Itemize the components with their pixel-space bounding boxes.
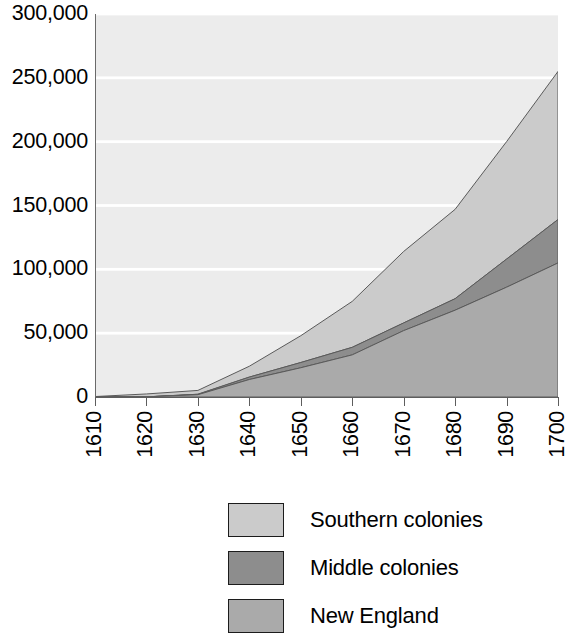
y-axis-spine [95,14,96,397]
x-axis: 1610162016301640165016601670168016901700 [0,397,572,492]
x-axis-tick-mark [95,397,96,406]
x-axis-tick-label: 1630 [187,411,209,458]
legend-label-new-england: New England [310,605,439,627]
y-axis-tick-label: 50,000 [23,322,88,344]
gridline [95,140,558,143]
x-axis-tick-label: 1680 [444,411,466,458]
x-axis-tick-mark [352,397,353,406]
x-axis-tick-mark [404,397,405,406]
legend-swatch-southern-colonies [228,503,284,537]
x-axis-tick-label: 1670 [393,411,415,458]
x-axis-tick-label: 1620 [136,411,158,458]
legend-item-new-england: New England [228,597,439,635]
gridline [95,76,558,79]
legend-swatch-middle-colonies [228,551,284,585]
x-axis-tick-label: 1700 [547,411,569,458]
y-axis-tick-label: 100,000 [12,258,88,280]
x-axis-tick-label: 1640 [239,411,261,458]
x-axis-tick-label: 1690 [496,411,518,458]
stacked-area-chart-figure: 300,000 250,000 200,000 150,000 100,000 … [0,0,572,643]
x-axis-tick-mark [507,397,508,406]
x-axis-tick-label: 1660 [341,411,363,458]
x-axis-tick-mark [249,397,250,406]
legend-item-southern-colonies: Southern colonies [228,501,483,539]
y-axis-tick-label: 300,000 [12,3,88,25]
legend-label-southern-colonies: Southern colonies [310,509,483,531]
x-axis-tick-label: 1610 [84,411,106,458]
x-axis-tick-mark [198,397,199,406]
series-areas [95,71,558,397]
plot-area [95,14,558,397]
x-axis-tick-mark [558,397,559,406]
y-axis-tick-label: 150,000 [12,195,88,217]
legend-label-middle-colonies: Middle colonies [310,557,459,579]
x-axis-tick-mark [301,397,302,406]
chart-legend: Southern colonies Middle colonies New En… [228,501,558,641]
legend-swatch-new-england [228,599,284,633]
legend-item-middle-colonies: Middle colonies [228,549,459,587]
plot-svg [95,14,558,397]
x-axis-tick-mark [146,397,147,406]
y-axis-tick-label: 200,000 [12,131,88,153]
x-axis-tick-mark [455,397,456,406]
y-axis-tick-label: 250,000 [12,67,88,89]
x-axis-tick-label: 1650 [290,411,312,458]
y-axis: 300,000 250,000 200,000 150,000 100,000 … [0,0,88,420]
gridline [95,14,558,15]
